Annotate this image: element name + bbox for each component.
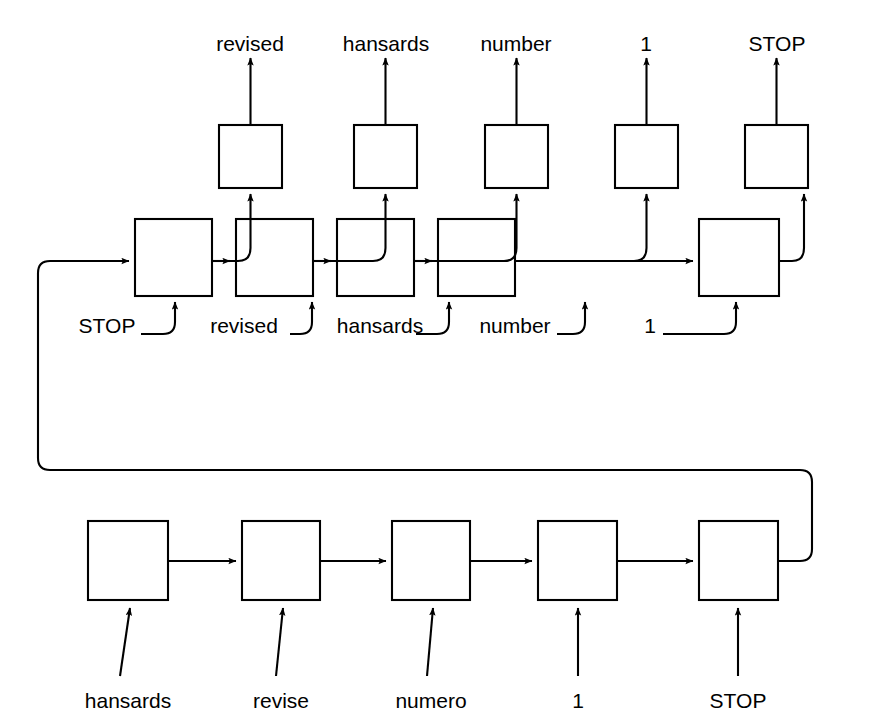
output-box-3	[485, 125, 548, 188]
encoder-box-1	[88, 521, 168, 600]
encoder-input-label-1: hansards	[85, 690, 171, 711]
encoder-box-5	[699, 521, 778, 600]
encoder-input-label-4: 1	[572, 690, 584, 711]
encoder-input-label-3: numero	[395, 690, 466, 711]
output-box-1	[219, 125, 282, 188]
encoder-box-4	[538, 521, 617, 600]
output-box-5	[745, 125, 808, 188]
output-label-3: number	[480, 33, 551, 54]
encoder-input-arrow-2	[276, 608, 283, 676]
diagram-lines	[0, 0, 896, 728]
decoder-input-label-2: revised	[210, 315, 278, 336]
decoder-input-label-1: STOP	[79, 315, 136, 336]
encoder-input-arrow-3	[427, 608, 433, 676]
decoder-box-3	[337, 219, 414, 296]
decoder-box-4	[438, 219, 515, 296]
decoder-input-hook-5	[663, 302, 736, 334]
output-label-2: hansards	[343, 33, 429, 54]
decoder-input-hook-1	[141, 302, 175, 334]
decoder-input-label-3: hansards	[337, 315, 423, 336]
encoder-input-arrow-1	[120, 608, 130, 676]
encoder-box-2	[242, 521, 320, 600]
diagram-canvas: revised hansards number 1 STOP STOP revi…	[0, 0, 896, 728]
decoder-box-1	[135, 219, 212, 296]
decoder-input-label-4: number	[479, 315, 550, 336]
encoder-to-decoder-loop	[38, 261, 812, 561]
encoder-box-3	[392, 521, 470, 600]
decoder-to-output-curve-4	[515, 194, 647, 261]
decoder-input-hook-4	[557, 302, 585, 334]
output-label-5: STOP	[749, 33, 806, 54]
decoder-input-label-5: 1	[644, 315, 656, 336]
output-label-1: revised	[216, 33, 284, 54]
encoder-input-label-2: revise	[253, 690, 309, 711]
output-label-4: 1	[640, 33, 652, 54]
decoder-box-5	[699, 219, 779, 296]
decoder-to-output-curve-5	[779, 194, 804, 261]
decoder-input-hook-2	[290, 302, 312, 334]
encoder-input-label-5: STOP	[710, 690, 767, 711]
output-box-2	[354, 125, 417, 188]
output-box-4	[615, 125, 678, 188]
